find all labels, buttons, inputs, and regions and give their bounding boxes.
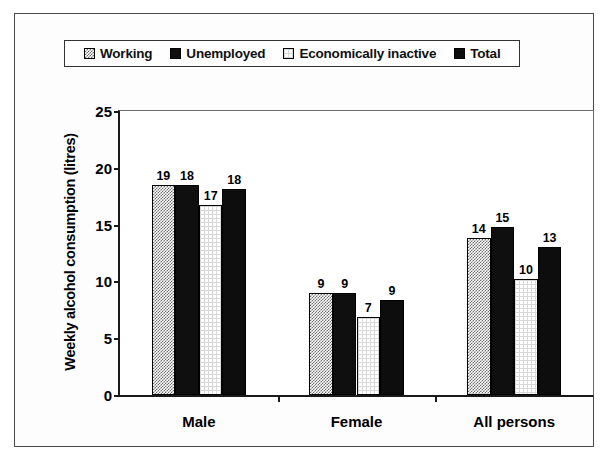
y-axis-tick-label: 0 xyxy=(104,387,112,404)
bar-value-label: 14 xyxy=(472,222,486,236)
bar-all-persons-working: 14 xyxy=(467,238,491,395)
y-axis-tick-mark xyxy=(114,168,120,170)
legend-label-economically-inactive: Economically inactive xyxy=(299,46,436,61)
bar-female-unemployed: 9 xyxy=(333,293,357,395)
legend-item-economically-inactive: Economically inactive xyxy=(283,46,436,61)
bar-all-persons-unemployed: 15 xyxy=(491,227,515,395)
x-axis-tick-mark xyxy=(435,395,437,402)
bar-male-economically-inactive: 17 xyxy=(199,205,223,395)
bar-all-persons-economically-inactive: 10 xyxy=(514,279,538,395)
bar-value-label: 7 xyxy=(365,301,372,315)
legend-item-total: Total xyxy=(454,46,500,61)
x-axis-category-label: All persons xyxy=(473,413,555,430)
bar-male-unemployed: 18 xyxy=(175,185,199,395)
x-axis-category-label: Male xyxy=(182,413,215,430)
y-axis-title: Weekly alcohol consumption (litres) xyxy=(59,108,81,396)
bar-value-label: 13 xyxy=(543,231,557,245)
bar-value-label: 10 xyxy=(519,263,533,277)
bar-value-label: 9 xyxy=(318,277,325,291)
bar-female-economically-inactive: 7 xyxy=(357,317,381,395)
chart-legend: Working Unemployed Economically inactive… xyxy=(64,40,520,67)
legend-swatch-working-icon xyxy=(84,48,95,59)
bar-female-total: 9 xyxy=(380,300,404,395)
y-axis-tick-mark xyxy=(114,281,120,283)
legend-label-working: Working xyxy=(100,46,152,61)
bar-value-label: 18 xyxy=(227,173,241,187)
bar-value-label: 17 xyxy=(204,189,218,203)
x-axis-category-label: Female xyxy=(331,413,383,430)
legend-item-working: Working xyxy=(84,46,152,61)
bar-value-label: 18 xyxy=(180,169,194,183)
x-axis-tick-mark xyxy=(278,395,280,402)
legend-label-total: Total xyxy=(470,46,500,61)
bar-value-label: 19 xyxy=(156,169,170,183)
y-axis-tick-mark xyxy=(114,225,120,227)
y-axis-tick-label: 20 xyxy=(95,159,112,176)
legend-swatch-economically-inactive-icon xyxy=(283,48,294,59)
y-axis-tick-label: 25 xyxy=(95,103,112,120)
y-axis-tick-mark xyxy=(114,395,120,397)
y-axis-tick-mark xyxy=(114,338,120,340)
bar-value-label: 15 xyxy=(495,211,509,225)
legend-label-unemployed: Unemployed xyxy=(186,46,265,61)
legend-item-unemployed: Unemployed xyxy=(170,46,265,61)
legend-swatch-unemployed-icon xyxy=(170,48,181,59)
figure-frame: Working Unemployed Economically inactive… xyxy=(14,13,594,447)
y-axis-tick-label: 5 xyxy=(104,330,112,347)
bar-female-working: 9 xyxy=(309,293,333,395)
bar-all-persons-total: 13 xyxy=(538,247,562,395)
bar-male-total: 18 xyxy=(222,189,246,395)
legend-swatch-total-icon xyxy=(454,48,465,59)
y-axis-tick-label: 15 xyxy=(95,216,112,233)
bar-value-label: 9 xyxy=(341,277,348,291)
y-axis-tick-mark xyxy=(114,111,120,113)
bar-male-working: 19 xyxy=(152,185,176,395)
y-axis-tick-label: 10 xyxy=(95,273,112,290)
bar-value-label: 9 xyxy=(388,284,395,298)
plot-area: 0510152025Male19181718Female9979All pers… xyxy=(118,110,594,397)
